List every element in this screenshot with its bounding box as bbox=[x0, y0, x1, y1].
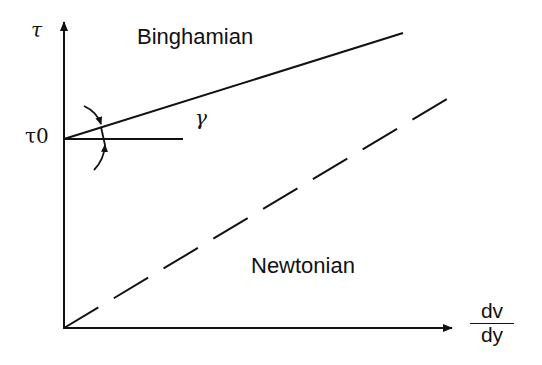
diagram-graphics bbox=[0, 0, 542, 365]
newtonian-label: Newtonian bbox=[251, 253, 355, 279]
dy-label: dy bbox=[470, 324, 514, 346]
binghamian-label: Binghamian bbox=[137, 24, 253, 50]
x-axis-label: dv dy bbox=[470, 300, 514, 346]
angle-arc-lower bbox=[94, 145, 105, 170]
tau0-label: τ0 bbox=[25, 124, 49, 148]
tau-axis-label: τ bbox=[31, 18, 42, 42]
dv-label: dv bbox=[470, 300, 514, 324]
newtonian-line bbox=[64, 96, 452, 328]
gamma-label: γ bbox=[195, 106, 207, 130]
rheology-diagram: τ τ0 γ Binghamian Newtonian dv dy bbox=[0, 0, 542, 365]
angle-arc-upper bbox=[84, 106, 101, 124]
